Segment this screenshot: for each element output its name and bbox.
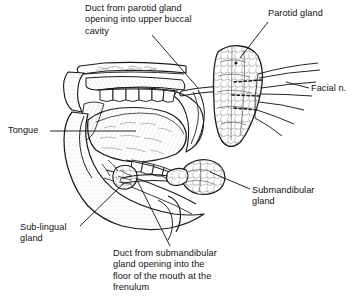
upper-teeth [100, 89, 175, 102]
facial-nerve-trunk-dot [235, 62, 238, 65]
tongue-surface-texture [88, 108, 187, 163]
label-sublingual-gland: Sub-lingual gland [20, 222, 67, 245]
label-tongue: Tongue [8, 125, 38, 136]
salivary-gland-diagram: Duct from parotid gland opening into upp… [0, 0, 355, 299]
label-parotid-gland: Parotid gland [268, 8, 323, 19]
label-submandibular-gland: Submandibular gland [252, 185, 314, 208]
head-profile-group [64, 46, 321, 240]
label-facial-nerve: Facial n. [311, 83, 346, 94]
label-parotid-duct: Duct from parotid gland opening into upp… [85, 3, 191, 37]
label-submandibular-duct: Duct from submandibular gland opening in… [113, 248, 217, 294]
facial-nerve-branches [255, 63, 320, 136]
